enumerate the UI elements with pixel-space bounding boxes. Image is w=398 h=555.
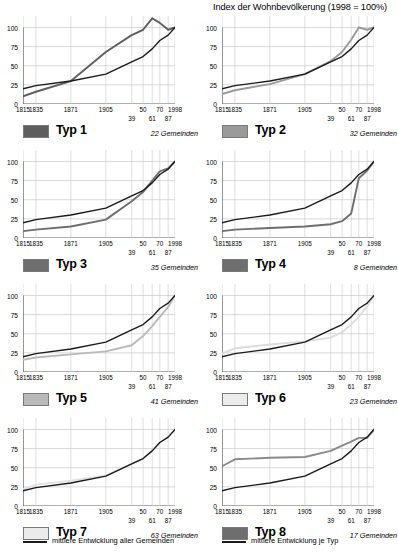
x-tick-label: 61 [149,249,156,256]
x-tick-label: 87 [165,517,172,524]
commune-count: 22 Gemeinden [151,129,198,138]
y-axis-labels: 0255075100 [0,418,21,506]
panel-legend: Typ 335 Gemeinden [23,257,199,276]
y-tick-label: 75 [11,311,18,318]
y-axis-labels: 0255075100 [199,16,220,104]
x-tick-label: 87 [165,249,172,256]
y-tick-label: 50 [210,62,217,69]
x-tick-label: 1835 [29,374,43,381]
x-tick-label: 1815 [215,240,229,247]
commune-count: 23 Gemeinden [350,397,397,406]
type-label: Typ 1 [56,123,87,137]
x-tick-label: 1835 [29,106,43,113]
x-tick-label: 1998 [367,240,381,247]
x-tick-label: 1835 [228,374,242,381]
x-tick-label: 39 [128,517,135,524]
x-tick-label: 1835 [228,508,242,515]
y-axis-labels: 0255075100 [0,150,21,238]
y-tick-label: 25 [11,215,18,222]
y-tick-label: 50 [11,464,18,471]
x-tick-label: 70 [355,508,362,515]
chart-panel-typ-5: 0255075100181518351871190550701998396187… [0,276,199,410]
legend-label-per-type: mittlere Entwicklung je Typ [251,536,338,545]
y-tick-label: 100 [7,292,18,299]
x-tick-label: 61 [348,517,355,524]
y-tick-label: 50 [11,62,18,69]
panel-legend: Typ 48 Gemeinden [222,257,398,276]
chart-panel-typ-1: 0255075100181518351871190550701998396187… [0,8,199,142]
y-tick-label: 75 [11,43,18,50]
commune-count: 8 Gemeinden [354,263,397,272]
y-tick-label: 100 [206,24,217,31]
x-tick-label: 1815 [16,240,30,247]
chart-panel-typ-3: 0255075100181518351871190550701998396187… [0,142,199,276]
commune-count: 35 Gemeinden [151,263,198,272]
x-tick-label: 61 [149,517,156,524]
x-tick-label: 1998 [168,240,182,247]
panel-legend: Typ 623 Gemeinden [222,391,398,410]
x-tick-label: 50 [339,240,346,247]
y-tick-label: 75 [210,445,217,452]
x-tick-label: 1871 [64,240,78,247]
x-tick-label: 1871 [64,374,78,381]
type-color-swatch [23,125,49,138]
type-label: Typ 6 [255,391,286,405]
y-tick-label: 25 [210,215,217,222]
type-label: Typ 4 [255,257,286,271]
x-tick-label: 50 [339,374,346,381]
x-tick-label: 87 [364,115,371,122]
x-tick-label: 1905 [298,374,312,381]
x-tick-label: 1871 [263,508,277,515]
x-tick-label: 39 [327,115,334,122]
y-tick-label: 100 [206,426,217,433]
type-label: Typ 5 [56,391,87,405]
plot-area [222,16,374,104]
x-tick-label: 1905 [99,106,113,113]
x-tick-label: 1871 [64,508,78,515]
x-tick-label: 50 [339,106,346,113]
x-tick-label: 87 [165,383,172,390]
chart-page: Index der Wohnbevölkerung (1998 = 100%) … [0,0,398,555]
panel-legend: Typ 232 Gemeinden [222,123,398,142]
chart-panel-typ-6: 0255075100181518351871190550701998396187… [199,276,398,410]
legend-line-per-type [222,541,246,543]
y-tick-label: 75 [210,43,217,50]
type-color-swatch [222,125,248,138]
x-tick-label: 1871 [263,240,277,247]
y-tick-label: 50 [210,330,217,337]
chart-legend: mittlere Entwicklung aller Gemeinden mit… [0,536,398,552]
x-tick-label: 1871 [64,106,78,113]
chart-panel-typ-8: 0255075100181518351871190550701998396187… [199,410,398,544]
x-tick-label: 1835 [228,106,242,113]
x-tick-label: 87 [364,249,371,256]
x-tick-label: 39 [327,517,334,524]
commune-count: 32 Gemeinden [350,129,397,138]
chart-panel-typ-4: 0255075100181518351871190550701998396187… [199,142,398,276]
x-tick-label: 70 [156,240,163,247]
x-tick-label: 39 [128,249,135,256]
x-tick-label: 1998 [168,374,182,381]
legend-label-all-communes: mittlere Entwicklung aller Gemeinden [52,536,174,545]
y-tick-label: 50 [210,464,217,471]
x-tick-label: 61 [348,115,355,122]
x-tick-label: 70 [355,374,362,381]
x-tick-label: 70 [355,240,362,247]
y-tick-label: 75 [11,445,18,452]
type-color-swatch [222,259,248,272]
panel-legend: Typ 541 Gemeinden [23,391,199,410]
y-tick-label: 25 [210,483,217,490]
x-tick-label: 70 [156,508,163,515]
x-tick-label: 1815 [215,106,229,113]
x-tick-label: 70 [156,106,163,113]
chart-panel-typ-2: 0255075100181518351871190550701998396187… [199,8,398,142]
plot-area [23,418,175,506]
y-tick-label: 50 [210,196,217,203]
y-tick-label: 100 [7,24,18,31]
x-tick-label: 1905 [298,508,312,515]
type-color-swatch [23,259,49,272]
y-tick-label: 25 [210,81,217,88]
x-tick-label: 1998 [367,106,381,113]
plot-area [23,16,175,104]
x-tick-label: 61 [149,383,156,390]
type-label: Typ 2 [255,123,286,137]
